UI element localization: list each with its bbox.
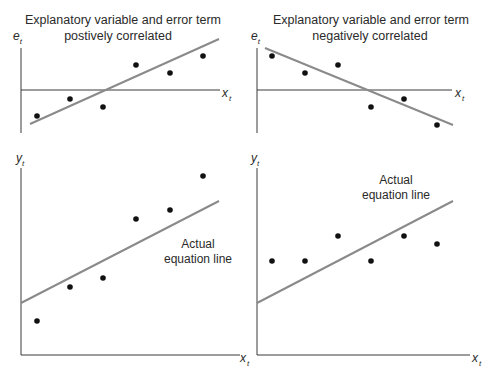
- line-annotation-1: Actual: [379, 173, 412, 187]
- x-axis-label: xt: [471, 351, 482, 368]
- data-points: [34, 53, 206, 119]
- panel-title-line1: Explanatory variable and error term: [273, 13, 469, 27]
- regression-line: [257, 201, 453, 303]
- y-axis-label: yt: [250, 151, 260, 168]
- panel-bottom-right: yt xt Actual equation line: [250, 151, 482, 368]
- regression-line: [30, 39, 219, 124]
- line-annotation-2: equation line: [164, 252, 232, 266]
- panel-top-right: Explanatory variable and error term nega…: [251, 13, 469, 133]
- panel-top-left: Explanatory variable and error term post…: [13, 13, 232, 133]
- panel-title-line1: Explanatory variable and error term: [25, 13, 221, 27]
- x-axis-label: xt: [239, 351, 250, 368]
- x-axis-label: xt: [454, 86, 465, 103]
- y-axis-label: yt: [15, 151, 25, 168]
- regression-line: [265, 48, 453, 125]
- y-axis-label: et: [251, 29, 261, 46]
- data-points: [34, 173, 206, 324]
- data-points: [269, 233, 440, 264]
- panel-title-line2: postively correlated: [64, 29, 172, 43]
- chart-figure: Explanatory variable and error term post…: [0, 0, 495, 379]
- line-annotation-2: equation line: [362, 188, 430, 202]
- y-axis-label: et: [13, 29, 23, 46]
- line-annotation-1: Actual: [181, 237, 214, 251]
- panel-title-line2: negatively correlated: [312, 29, 427, 43]
- panel-bottom-left: yt xt Actual equation line: [15, 151, 250, 368]
- x-axis-label: xt: [221, 86, 232, 103]
